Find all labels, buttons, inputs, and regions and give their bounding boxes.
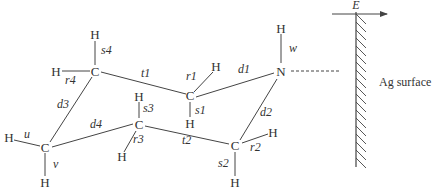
label-r4: r4 bbox=[65, 73, 76, 87]
surface-label: Ag surface bbox=[379, 75, 431, 89]
label-r3: r3 bbox=[133, 132, 144, 146]
label-d2: d2 bbox=[260, 105, 272, 119]
bond-d1 bbox=[196, 73, 274, 97]
label-d3: d3 bbox=[57, 97, 69, 111]
atom-c5: C bbox=[41, 140, 50, 155]
label-r2: r2 bbox=[250, 140, 261, 154]
label-t2: t2 bbox=[182, 133, 191, 147]
atom-h1-s1: H bbox=[185, 116, 194, 131]
label-t1: t1 bbox=[141, 66, 150, 80]
electric-field-arrow: E bbox=[332, 0, 387, 14]
atom-h2-r2: H bbox=[268, 125, 277, 140]
atom-nitrogen: N bbox=[276, 64, 286, 79]
atom-h4-r4: H bbox=[51, 64, 60, 79]
atom-c2: C bbox=[231, 138, 240, 153]
atom-c4: C bbox=[91, 64, 100, 79]
atom-h5-u: H bbox=[4, 130, 13, 145]
wall-hatching bbox=[356, 14, 366, 168]
ag-surface-wall: Ag surface bbox=[356, 12, 431, 168]
atom-c1: C bbox=[186, 88, 195, 103]
label-s3: s3 bbox=[143, 101, 154, 115]
label-s2: s2 bbox=[218, 156, 229, 170]
atom-h-n: H bbox=[276, 21, 285, 36]
label-d1: d1 bbox=[238, 62, 250, 76]
atom-h5-v: H bbox=[40, 175, 49, 189]
piperidine-on-ag-diagram: E Ag surface bbox=[0, 0, 432, 189]
atom-c3: C bbox=[135, 117, 144, 132]
bond-r1 bbox=[194, 72, 213, 92]
label-s1: s1 bbox=[195, 103, 206, 117]
field-label: E bbox=[351, 0, 360, 12]
label-v: v bbox=[53, 157, 59, 171]
bond-labels: w d1 d2 d3 d4 t1 t2 r1 r2 r3 r4 s1 s2 s3… bbox=[24, 41, 297, 171]
atom-h1-r1: H bbox=[211, 59, 220, 74]
label-w: w bbox=[289, 41, 297, 55]
label-s4: s4 bbox=[101, 43, 112, 57]
label-u: u bbox=[24, 127, 30, 141]
atom-h2-s2: H bbox=[230, 175, 239, 189]
atom-h3-r3: H bbox=[117, 149, 126, 164]
label-d4: d4 bbox=[90, 117, 102, 131]
label-r1: r1 bbox=[186, 69, 197, 83]
atom-h4-s4: H bbox=[90, 27, 99, 42]
